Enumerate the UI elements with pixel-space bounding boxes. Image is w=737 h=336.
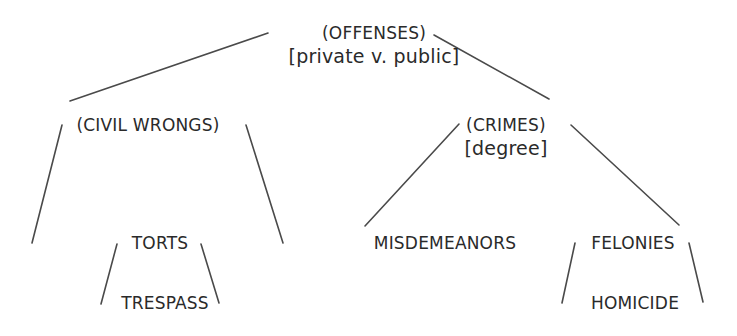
node-offenses: (OFFENSES) [private v. public]	[264, 22, 484, 68]
node-trespass-label: TRESPASS	[121, 293, 209, 313]
edge-offenses-civil	[70, 33, 268, 101]
offenses-tree-diagram: (OFFENSES) [private v. public] (CIVIL WR…	[0, 0, 737, 336]
node-torts: TORTS	[110, 232, 210, 254]
edge-crimes-felonies	[571, 125, 679, 225]
node-crimes-label: (CRIMES)	[466, 115, 546, 135]
node-torts-label: TORTS	[132, 233, 189, 253]
node-homicide: HOMICIDE	[575, 292, 695, 314]
node-misdemeanors-label: MISDEMEANORS	[374, 233, 516, 253]
node-civil-wrongs: (CIVIL WRONGS)	[28, 114, 268, 136]
node-crimes-criterion: [degree]	[446, 136, 566, 160]
node-homicide-label: HOMICIDE	[591, 293, 679, 313]
node-offenses-label: (OFFENSES)	[322, 23, 426, 43]
edge-civil-left	[32, 125, 62, 243]
node-civil-wrongs-label: (CIVIL WRONGS)	[76, 115, 219, 135]
node-felonies: FELONIES	[578, 232, 688, 254]
node-crimes: (CRIMES) [degree]	[446, 114, 566, 160]
node-misdemeanors: MISDEMEANORS	[355, 232, 535, 254]
node-offenses-criterion: [private v. public]	[264, 44, 484, 68]
edge-crimes-misdemeanors	[365, 124, 459, 226]
edge-civil-right	[246, 125, 283, 243]
edge-felonies-left	[562, 243, 575, 303]
node-trespass: TRESPASS	[100, 292, 230, 314]
node-felonies-label: FELONIES	[591, 233, 675, 253]
